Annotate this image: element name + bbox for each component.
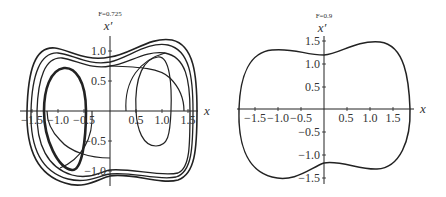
svg-text:1.5: 1.5: [386, 111, 401, 125]
left-x-tick-labels: −1.5 −1.0 −0.5 0.5 1.0 1.5: [21, 113, 195, 127]
svg-text:1.0: 1.0: [91, 44, 106, 58]
svg-text:0.5: 0.5: [339, 111, 354, 125]
svg-text:−1.0: −1.0: [47, 113, 69, 127]
left-x-axis-title: x: [203, 103, 210, 118]
svg-text:−0.5: −0.5: [298, 125, 320, 139]
figure: F=0.725 x′ x: [0, 0, 446, 197]
svg-text:−1.5: −1.5: [244, 111, 266, 125]
svg-text:0.5: 0.5: [305, 80, 320, 94]
left-y-axis-title: x′: [103, 18, 113, 33]
right-x-tick-labels: −1.5 −1.0 −0.5 0.5 1.0 1.5: [244, 111, 400, 125]
svg-text:1.0: 1.0: [305, 57, 320, 71]
svg-text:1.0: 1.0: [155, 113, 170, 127]
right-plot: F=0.9 x′ x −1.5 −1.0 −0.5 0.5 1.0 1.5 1.…: [237, 12, 426, 185]
svg-text:−1.0: −1.0: [267, 111, 289, 125]
svg-text:0.5: 0.5: [129, 113, 144, 127]
svg-text:−1.0: −1.0: [298, 148, 320, 162]
svg-text:1.5: 1.5: [305, 34, 320, 48]
right-y-axis-title: x′: [317, 20, 327, 35]
svg-text:−0.5: −0.5: [73, 113, 95, 127]
svg-text:−1.5: −1.5: [21, 113, 43, 127]
svg-text:0.5: 0.5: [91, 74, 106, 88]
right-plot-title: F=0.9: [316, 12, 333, 20]
svg-text:1.5: 1.5: [181, 113, 196, 127]
svg-text:−1.0: −1.0: [84, 164, 106, 178]
left-plot: F=0.725 x′ x: [20, 10, 210, 186]
right-x-axis-title: x: [419, 101, 426, 116]
left-plot-title: F=0.725: [98, 10, 122, 18]
svg-text:1.0: 1.0: [363, 111, 378, 125]
svg-text:−0.5: −0.5: [84, 134, 106, 148]
svg-text:−1.5: −1.5: [298, 171, 320, 185]
svg-text:−0.5: −0.5: [290, 111, 312, 125]
